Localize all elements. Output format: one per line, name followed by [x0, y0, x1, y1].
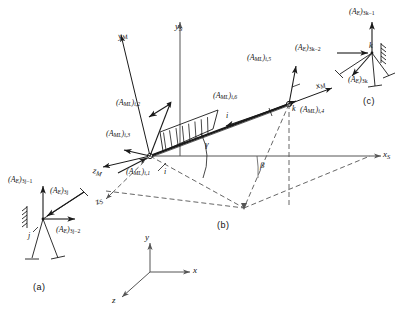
axis-zs [106, 156, 150, 199]
axis-label-zm: zM [92, 166, 103, 178]
caption-c: (c) [363, 97, 375, 106]
inset-a-force-label-3j: (AE)3j [50, 187, 68, 196]
inset-a-group [22, 186, 88, 259]
force-label-aml-i3: (AML)i,3 [106, 130, 130, 139]
angle-beta-arc [257, 156, 258, 178]
diagram-vector-layer [0, 0, 412, 314]
member-length-label-i: i [226, 112, 228, 120]
inset-a-node-label-j: j [28, 232, 30, 240]
axis-label-global-y: y [145, 233, 149, 242]
axis-zm [103, 156, 150, 167]
engineering-diagram: yM yS xM xS zM zS y x z (AML)i,2 (AML)i,… [0, 0, 412, 314]
force-aml-i5-arrow [289, 66, 300, 104]
inset-a-force-label-3jm2: (AE)3j−2 [56, 226, 80, 235]
axis-label-ym: yM [117, 30, 128, 42]
angle-label-beta: β [260, 161, 264, 170]
global-axes-triad [122, 243, 190, 297]
inset-a-label-tick [33, 227, 38, 232]
inset-c-force-label-3km2: (AE)3k−2 [295, 44, 321, 53]
caption-b: (b) [217, 221, 230, 230]
axis-label-global-x: x [193, 266, 197, 275]
axis-label-global-z: z [112, 296, 116, 305]
axis-label-ys: yS [175, 22, 182, 32]
axis-label-xs: xS [383, 150, 390, 160]
inset-a-support [22, 206, 27, 228]
force-label-aml-i5: (AML)i,5 [247, 54, 271, 63]
inset-c-support [381, 43, 386, 64]
inset-c-force-label-3km1: (AE)3k−1 [349, 8, 375, 17]
angle-label-gamma: γ [205, 140, 209, 149]
force-label-aml-i1: (AML)i,1 [126, 168, 150, 177]
inset-a-force-label-3jm1: (AE)3j−1 [8, 176, 32, 185]
inset-c-node-label-k: k [369, 42, 373, 50]
distributed-load-hatch [160, 110, 218, 151]
force-label-aml-i4: (AML)i,4 [300, 106, 324, 115]
caption-a: (a) [33, 283, 46, 292]
inset-c-force-label-3k: (AE)3k [348, 76, 368, 85]
force-label-aml-i6: (AML)i,6 [213, 92, 237, 101]
force-label-aml-i2: (AML)i,2 [116, 99, 140, 108]
node-label-i: i [164, 168, 166, 176]
force-aml-i3-arrow [124, 150, 150, 156]
node-label-k: k [292, 105, 296, 113]
inset-a-member-stubs [25, 188, 88, 259]
